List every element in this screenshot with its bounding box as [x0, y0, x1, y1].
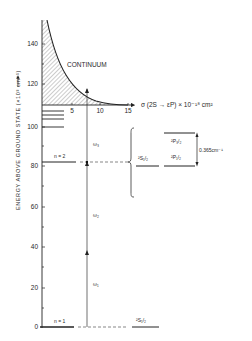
level-n1-label: n = 1 [54, 318, 65, 324]
y-tick-label: 80 [31, 162, 39, 169]
rydberg-levels [42, 111, 64, 127]
sigma-tick-label: 10 [96, 107, 104, 114]
energy-level-diagram: 140 120 100 80 60 40 20 0 ENERGY ABOVE G… [0, 0, 252, 341]
level-2p12-label: ²P₁/₂ [171, 154, 181, 160]
level-n2-label: n = 2 [54, 153, 65, 159]
arrow-w1-icon [85, 250, 89, 255]
sigma-tick-label: 15 [124, 107, 132, 114]
splitting-arrow-up-icon [196, 133, 199, 138]
y-tick-label: 0 [34, 323, 38, 330]
y-tick-label: 20 [31, 284, 39, 291]
level-2s12-n1-label: ²S₁/₂ [136, 317, 146, 323]
sigma-tick-label: 5 [70, 107, 74, 114]
y-tick-label: 100 [27, 123, 38, 130]
splitting-value: 0.365cm⁻¹ [199, 147, 223, 153]
y-tick-label: 60 [31, 203, 39, 210]
omega-1-label: ω₁ [93, 281, 99, 287]
y-axis-title: ENERGY ABOVE GROUND STATE (×10³ cm⁻¹) [15, 70, 21, 210]
sigma-axis-title: σ (2S → εP) × 10⁻¹⁸ cm² [141, 101, 213, 109]
arrow-w3-icon [85, 88, 89, 93]
splitting-arrow-down-icon [196, 162, 199, 167]
y-tick-label: 120 [27, 80, 38, 87]
y-tick-label: 40 [31, 243, 39, 250]
level-2s12-n2-label: ²S₁/₂ [138, 155, 148, 161]
fine-structure-brace [128, 128, 134, 197]
omega-2-label: ω₂ [93, 212, 99, 218]
continuum-label: CONTINUUM [67, 61, 107, 68]
level-2p32-label: ²P₃/₂ [171, 138, 181, 144]
n2-intermediate-dot [86, 161, 88, 163]
y-tick-label: 140 [27, 40, 38, 47]
omega-3-label: ω₃ [93, 141, 99, 147]
